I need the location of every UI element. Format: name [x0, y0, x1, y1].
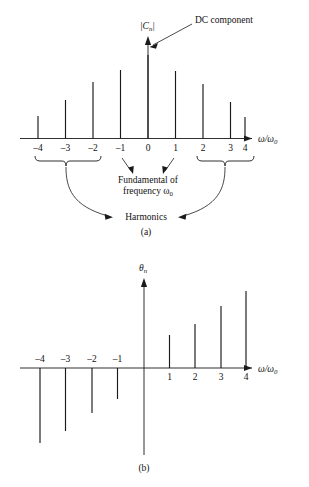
panel-b-x-axis-arrowhead [244, 365, 252, 371]
harmonics-label: Harmonics [125, 212, 167, 222]
panel-b-tick-label--3: –3 [60, 354, 71, 364]
dc-component-arrowhead [150, 43, 159, 49]
panel-b-y-axis-arrowhead [141, 278, 147, 287]
fundamental-label-line2-sub: 0 [170, 190, 174, 197]
harmonics-right-brace [197, 156, 254, 166]
panel-b-y-label-sub: n [144, 267, 148, 274]
panel-a-tick-label-3: 3 [228, 143, 233, 153]
fundamental-label-line2-main: frequency ω [123, 186, 170, 196]
harmonics-right-leader-line [183, 167, 225, 216]
panel-a: |Cn| ω/ω0 –4 –3 –2 –1 0 1 2 3 4 DC compo… [20, 15, 278, 238]
panel-a-y-label-close: | [152, 21, 155, 31]
panel-b-tick-label--4: –4 [34, 354, 45, 364]
panel-b-tick-label--2: –2 [86, 354, 97, 364]
panel-a-x-axis-label: ω/ω0 [258, 134, 278, 145]
panel-a-tick-label--3: –3 [60, 143, 71, 153]
panel-b-tick-label-1: 1 [167, 372, 172, 382]
fourier-spectrum-figure: |Cn| ω/ω0 –4 –3 –2 –1 0 1 2 3 4 DC compo… [0, 0, 309, 487]
panel-b-x-axis-label: ω/ω0 [258, 364, 278, 375]
panel-b-x-label-sub: 0 [274, 368, 278, 375]
panel-b-tick-label--1: –1 [112, 354, 123, 364]
panel-a-tick-label--1: –1 [115, 143, 126, 153]
fundamental-right-arrowhead [162, 166, 168, 174]
panel-a-tick-label--4: –4 [32, 143, 43, 153]
panel-a-y-axis-arrowhead [145, 36, 151, 45]
figure-container: |Cn| ω/ω0 –4 –3 –2 –1 0 1 2 3 4 DC compo… [0, 0, 309, 487]
fundamental-label-line2: frequency ω0 [123, 186, 174, 197]
harmonics-left-leader-line [66, 167, 108, 216]
dc-component-leader-line [153, 24, 192, 45]
harmonics-left-brace [35, 156, 101, 166]
fundamental-label-line1: Fundamental of [118, 175, 179, 185]
dc-component-label: DC component [195, 15, 253, 25]
panel-b-tick-label-2: 2 [193, 372, 198, 382]
panel-a-tick-label--2: –2 [87, 143, 98, 153]
panel-a-x-label-main: ω/ω [258, 134, 274, 144]
panel-b-tick-label-4: 4 [244, 372, 249, 382]
panel-a-y-axis-label: |Cn| [140, 21, 155, 32]
panel-a-x-label-sub: 0 [274, 138, 278, 145]
panel-b-caption: (b) [138, 463, 149, 474]
panel-a-tick-label-4: 4 [243, 143, 248, 153]
panel-a-caption: (a) [141, 227, 152, 238]
panel-a-tick-label-1: 1 [173, 143, 178, 153]
panel-a-tick-label-0: 0 [146, 143, 151, 153]
panel-a-tick-label-2: 2 [201, 143, 206, 153]
fundamental-left-arrowhead [128, 166, 134, 174]
panel-b-x-label-main: ω/ω [258, 364, 274, 374]
panel-b-tick-label-3: 3 [219, 372, 224, 382]
panel-b: θn ω/ω0 –4 –3 –2 –1 1 2 3 4 (b) [20, 263, 278, 474]
harmonics-left-arrowhead [105, 214, 113, 220]
harmonics-right-arrowhead [178, 214, 186, 220]
panel-b-y-axis-label: θn [139, 263, 148, 274]
